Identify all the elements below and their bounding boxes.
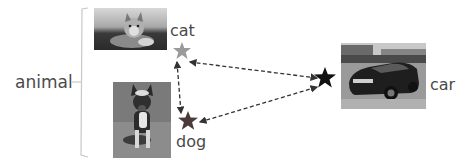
- star-cat-icon: [173, 42, 191, 59]
- diagram-overlay: [0, 0, 470, 167]
- edge-cat-dog: [177, 62, 181, 113]
- edge-cat-car: [190, 62, 317, 78]
- edge-dog-car: [200, 87, 317, 122]
- star-dog-icon: [178, 111, 198, 130]
- star-car-icon: [314, 67, 336, 88]
- group-bracket: [72, 8, 88, 157]
